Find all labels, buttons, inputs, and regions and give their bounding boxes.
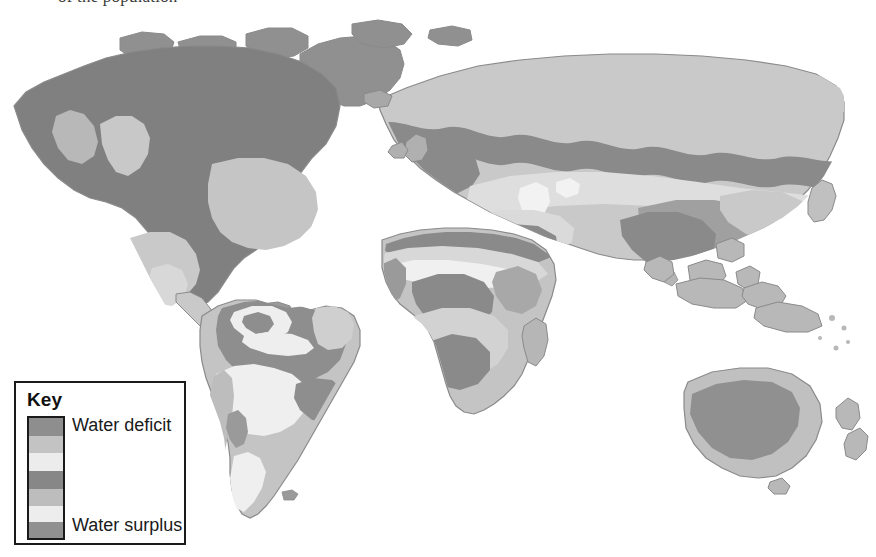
legend-band-1-deficit-high bbox=[29, 418, 63, 436]
legend-band-4-neutral bbox=[29, 471, 63, 489]
legend-title: Key bbox=[27, 389, 62, 411]
legend-label-water-surplus: Water surplus bbox=[72, 515, 182, 536]
map-legend-key: Key Water deficit Water surplus bbox=[14, 381, 186, 545]
region-south-america bbox=[200, 300, 360, 518]
legend-band-7-surplus-high bbox=[29, 522, 63, 538]
legend-band-6-surplus-mid bbox=[29, 506, 63, 523]
region-new-zealand bbox=[836, 398, 868, 460]
region-australia bbox=[684, 368, 822, 494]
region-africa bbox=[378, 216, 556, 414]
legend-band-5-surplus-low bbox=[29, 489, 63, 506]
legend-band-2-deficit-mid bbox=[29, 436, 63, 453]
legend-gradient-bar bbox=[27, 416, 65, 540]
page-root: of the population bbox=[0, 0, 876, 557]
region-north-america bbox=[14, 46, 340, 308]
legend-band-3-deficit-low bbox=[29, 453, 63, 471]
legend-label-water-deficit: Water deficit bbox=[72, 415, 171, 436]
cutoff-body-text: of the population bbox=[58, 0, 178, 7]
